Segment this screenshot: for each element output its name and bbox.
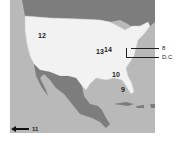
label-9: 9: [121, 86, 125, 93]
callout-line-dc-vertical: [126, 48, 127, 57]
callout-line-dc: [126, 57, 159, 58]
label-10: 10: [112, 71, 120, 78]
label-11: 11: [32, 126, 38, 132]
map: [10, 0, 155, 133]
arrow-head-icon: [11, 126, 16, 132]
map-shapes: [10, 0, 155, 133]
callout-line-8: [131, 48, 159, 49]
label-13: 13: [96, 48, 104, 55]
label-12: 12: [38, 32, 46, 39]
label-14: 14: [104, 46, 112, 53]
callout-dc: D.C: [162, 54, 172, 60]
callout-8: 8: [162, 45, 165, 51]
